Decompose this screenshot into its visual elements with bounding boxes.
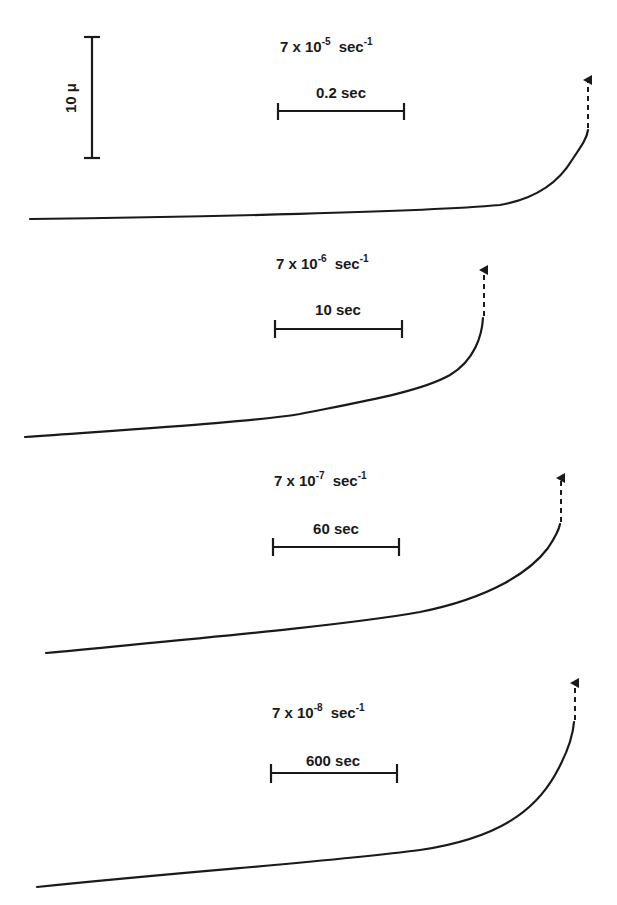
creep-curve-1 bbox=[30, 130, 588, 219]
creep-curve-2 bbox=[25, 318, 483, 437]
rate-label-3: 7 x 10-7sec-1 bbox=[274, 470, 367, 489]
time-scale-bar-3 bbox=[273, 538, 399, 556]
time-scale-bar-1 bbox=[278, 103, 404, 120]
creep-curves-figure: 10 μ 7 x 10-5sec-1 0.2 sec 7 x 10-6sec-1… bbox=[0, 0, 617, 905]
creep-curve-4 bbox=[37, 722, 574, 887]
time-scale-label-2: 10 sec bbox=[315, 301, 361, 318]
panel-2: 7 x 10-6sec-1 10 sec bbox=[25, 253, 484, 437]
panel-4: 7 x 10-8sec-1 600 sec bbox=[37, 683, 575, 887]
time-scale-label-4: 600 sec bbox=[306, 752, 360, 769]
time-scale-label-1: 0.2 sec bbox=[316, 84, 366, 101]
time-scale-bar-2 bbox=[275, 320, 402, 338]
rate-label-1: 7 x 10-5sec-1 bbox=[280, 36, 373, 55]
panel-3: 7 x 10-7sec-1 60 sec bbox=[46, 470, 561, 653]
y-scale-label: 10 μ bbox=[62, 83, 79, 113]
rate-label-2: 7 x 10-6sec-1 bbox=[276, 253, 369, 272]
y-scale-bar: 10 μ bbox=[62, 37, 100, 158]
rate-label-4: 7 x 10-8sec-1 bbox=[272, 702, 365, 721]
panel-1: 7 x 10-5sec-1 0.2 sec bbox=[30, 36, 588, 219]
creep-curve-3 bbox=[46, 524, 560, 653]
time-scale-label-3: 60 sec bbox=[313, 520, 359, 537]
